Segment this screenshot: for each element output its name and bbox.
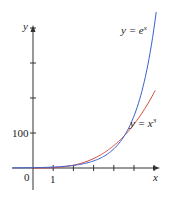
series-x-cubed <box>33 90 155 168</box>
plot-area: y x 0 1 100 y = ex y = x3 <box>0 0 174 199</box>
y-tick-label-100: 100 <box>12 127 29 139</box>
x-tick-label-1: 1 <box>50 173 56 185</box>
exp-curve-label: y = ex <box>120 24 148 36</box>
cube-curve-label: y = x3 <box>129 117 157 129</box>
chart: y x 0 1 100 y = ex y = x3 <box>0 0 174 199</box>
x-axis-label: x <box>152 171 158 183</box>
y-axis-label: y <box>22 20 28 32</box>
origin-label: 0 <box>24 171 30 183</box>
